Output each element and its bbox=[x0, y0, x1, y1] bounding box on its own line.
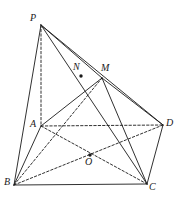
vertex-label-c: C bbox=[149, 182, 156, 192]
vertex-label-b: B bbox=[4, 177, 10, 187]
edge-M-D bbox=[102, 78, 163, 125]
vertex-label-a: A bbox=[30, 119, 36, 129]
edge-B-C bbox=[14, 184, 147, 185]
edge-P-C bbox=[41, 25, 147, 184]
geometry-canvas bbox=[0, 0, 179, 205]
edge-P-D bbox=[41, 25, 163, 125]
vertex-dot-group bbox=[79, 74, 91, 156]
edge-B-M bbox=[14, 78, 102, 185]
vertex-label-m: M bbox=[101, 63, 109, 73]
edge-A-D bbox=[41, 125, 163, 126]
edge-C-D bbox=[147, 125, 163, 184]
vertex-label-d: D bbox=[166, 118, 173, 128]
vertex-label-o: O bbox=[85, 157, 92, 167]
edge-A-C bbox=[41, 126, 147, 184]
vertex-label-n: N bbox=[73, 62, 80, 72]
edge-P-B bbox=[14, 25, 41, 185]
vertex-dot-n bbox=[79, 74, 82, 77]
vertex-label-p: P bbox=[30, 13, 36, 23]
geometry-figure: PABCDMNO bbox=[0, 0, 179, 205]
